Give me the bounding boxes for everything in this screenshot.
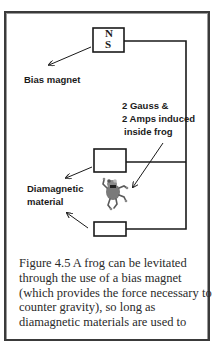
figure-caption: Figure 4.5 A frog can be levitated throu… [19, 256, 211, 330]
bias-magnet-label: Bias magnet [24, 73, 81, 86]
diamagnetic-label-line-1: Diamagnetic [27, 182, 84, 195]
arrow-upper-to-diamagnetic-label [66, 167, 92, 178]
induced-label-line-3: inside frog [124, 125, 173, 138]
arrow-to-frog [133, 143, 163, 187]
diamagnetic-label-line-2: material [27, 195, 63, 208]
lower-diamagnetic-box [94, 222, 126, 236]
caption-line: counter gravity), so long as [19, 300, 211, 315]
induced-label-line-2: 2 Amps induced [122, 112, 195, 125]
caption-line: (which provides the force necessary to [19, 286, 211, 301]
caption-line: through the use of a bias magnet [19, 271, 211, 286]
arrow-to-bias-label [49, 47, 91, 65]
magnet-south-label: S [105, 39, 111, 50]
caption-line: Figure 4.5 A frog can be levitated [19, 256, 211, 271]
upper-diamagnetic-box [94, 149, 126, 172]
induced-label-line-1: 2 Gauss & [122, 99, 168, 112]
arrow-lower-to-diamagnetic-label [67, 213, 88, 228]
frog-icon [103, 178, 129, 211]
caption-line: diamagnetic materials are used to [19, 315, 211, 330]
